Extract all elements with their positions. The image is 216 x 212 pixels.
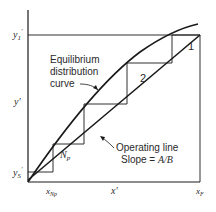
operating-label-1: Operating line (116, 142, 179, 153)
stage-label-1: 1 (188, 40, 194, 52)
arrowhead-icon (100, 136, 105, 141)
operating-label-2: Slope = A/B (121, 154, 173, 165)
equilibrium-label-3: curve (50, 78, 75, 89)
equilibrium-label-2: distribution (50, 66, 98, 77)
staircase-diagram: 1 2 Np y1′ y′ yS′ xNp x′ xF Equilibrium … (0, 0, 216, 212)
arrowhead-icon (93, 85, 98, 90)
stage-label-np: Np (59, 149, 71, 162)
y1-label: y1′ (12, 27, 23, 42)
x-axis-label: x′ (110, 185, 118, 196)
yS-label: yS′ (12, 165, 23, 180)
xF-label: xF (195, 186, 204, 197)
xNp-label: xNp (45, 186, 57, 197)
equilibrium-label-1: Equilibrium (50, 54, 99, 65)
stage-label-2: 2 (140, 72, 146, 84)
y-axis-label: y′ (13, 96, 21, 107)
